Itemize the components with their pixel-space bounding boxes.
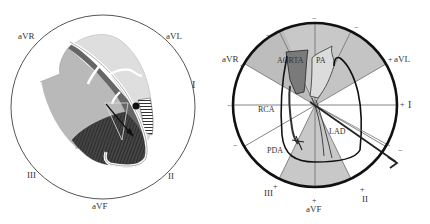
polarity-avf-minus: − bbox=[312, 14, 317, 23]
left-heart-diagram: aVR aVL I III II aVF bbox=[11, 15, 195, 211]
polarity-i-minus: − bbox=[227, 101, 232, 110]
diagram-canvas: aVR aVL I III II aVF bbox=[0, 0, 430, 224]
left-label-ii: II bbox=[168, 171, 174, 181]
label-rca: RCA bbox=[258, 105, 275, 114]
polarity-avl-minus: − bbox=[233, 141, 238, 150]
label-pa: PA bbox=[316, 56, 326, 65]
right-label-avf: aVF bbox=[306, 204, 322, 214]
label-pda: PDA bbox=[267, 146, 283, 155]
right-label-ii: II bbox=[362, 194, 368, 204]
left-label-avl: aVL bbox=[166, 31, 182, 41]
polarity-iii-plus: + bbox=[273, 182, 278, 191]
left-label-avf: aVF bbox=[92, 201, 108, 211]
polarity-ii-plus: + bbox=[360, 185, 365, 194]
right-label-avr: aVR bbox=[222, 54, 239, 64]
right-label-avl: aVL bbox=[394, 54, 410, 64]
label-aorta: AORTA bbox=[277, 56, 304, 65]
polarity-avf-plus: + bbox=[312, 196, 317, 205]
right-label-iii: III bbox=[264, 188, 273, 198]
polarity-avr-plus: + bbox=[240, 61, 245, 70]
right-label-i: I bbox=[408, 99, 411, 110]
left-label-iii: III bbox=[27, 170, 36, 180]
left-label-i: I bbox=[192, 79, 195, 90]
left-label-avr: aVR bbox=[18, 31, 35, 41]
polarity-ii-minus: − bbox=[266, 31, 271, 40]
polarity-i-plus: + bbox=[400, 100, 405, 109]
right-hexaxial-diagram: AORTA PA RCA PDA LAD aVR aVL I III II aV… bbox=[222, 14, 411, 214]
black-dot-marker bbox=[133, 103, 140, 110]
label-lad: LAD bbox=[329, 127, 346, 136]
polarity-avl-plus: + bbox=[388, 55, 393, 64]
polarity-iii-minus: − bbox=[354, 23, 359, 32]
polarity-avr-minus: − bbox=[398, 146, 403, 155]
